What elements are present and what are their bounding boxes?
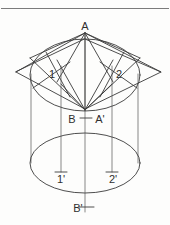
label-point-1-prime: 1' <box>57 173 65 185</box>
apex-generator-lines <box>16 33 161 110</box>
label-point-2-prime: 2' <box>109 173 117 185</box>
geometry-drawing: A 1 2 B A' 1' 2' B' <box>0 0 170 225</box>
label-point-2: 2 <box>116 68 122 80</box>
label-bottom-b-prime: B' <box>73 202 82 214</box>
label-base-a-prime: A' <box>95 113 104 125</box>
label-apex-a: A <box>81 20 89 32</box>
cylinder-side-edges <box>31 74 138 163</box>
tick-marks <box>55 118 118 207</box>
label-point-1: 1 <box>49 68 55 80</box>
circumscribed-rhombus <box>16 39 161 109</box>
label-base-b: B <box>68 113 75 125</box>
figure-canvas: A 1 2 B A' 1' 2' B' <box>0 0 170 225</box>
